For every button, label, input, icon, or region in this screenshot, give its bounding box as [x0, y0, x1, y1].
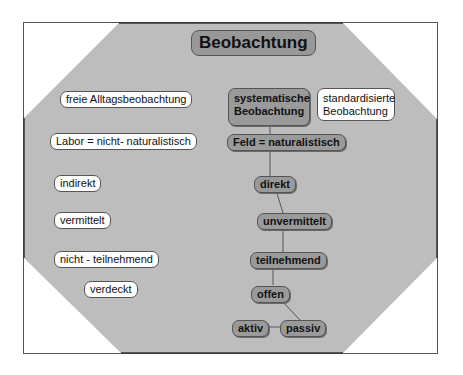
node-systematische-beobachtung: systematische Beobachtung [228, 88, 310, 126]
node-labor: Labor = nicht- naturalistisch [50, 133, 197, 150]
node-standardisierte-beobachtung: standardisierte Beobachtung [317, 88, 395, 121]
node-direkt: direkt [254, 176, 296, 193]
node-teilnehmend: teilnehmend [250, 252, 327, 269]
node-standardisierte-line2: Beobachtung [323, 105, 389, 118]
node-standardisierte-line1: standardisierte [323, 92, 389, 105]
node-aktiv: aktiv [232, 320, 269, 337]
node-unvermittelt: unvermittelt [257, 213, 332, 230]
node-feld-naturalistisch: Feld = naturalistisch [227, 134, 346, 151]
node-vermittelt: vermittelt [54, 212, 111, 229]
node-verdeckt: verdeckt [84, 281, 138, 298]
node-systematische-line2: Beobachtung [234, 105, 304, 118]
node-indirekt: indirekt [54, 175, 101, 192]
node-freie-alltagsbeobachtung: freie Alltagsbeobachtung [60, 91, 192, 108]
node-passiv: passiv [280, 320, 326, 337]
node-systematische-line1: systematische [234, 92, 304, 105]
title-node: Beobachtung [191, 30, 316, 56]
node-offen: offen [251, 286, 290, 303]
node-nicht-teilnehmend: nicht - teilnehmend [54, 251, 159, 268]
